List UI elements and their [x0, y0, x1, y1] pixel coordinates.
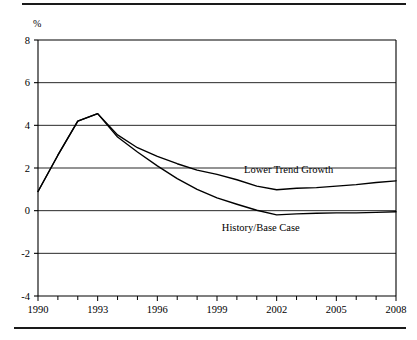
chart-canvas: 86420-2-4 1990199319961999200220052008 %… — [0, 0, 417, 340]
y-axis-title: % — [33, 18, 41, 29]
series-inline-labels: Lower Trend GrowthHistory/Base Case — [222, 164, 334, 233]
gridlines-group — [38, 40, 396, 253]
y-tick-label: -4 — [21, 291, 30, 302]
x-axis-tick-labels: 1990199319961999200220052008 — [28, 304, 407, 315]
line-chart: 86420-2-4 1990199319961999200220052008 %… — [0, 0, 417, 340]
x-tick-label: 2002 — [266, 304, 287, 315]
series-lines-group — [38, 114, 396, 215]
series-label: Lower Trend Growth — [244, 164, 334, 175]
y-tick-label: 4 — [25, 120, 31, 131]
y-tick-label: 2 — [25, 163, 30, 174]
y-axis-tick-labels: 86420-2-4 — [21, 35, 31, 302]
x-tick-label: 1996 — [147, 304, 168, 315]
y-axis-ticks — [34, 40, 38, 296]
x-tick-label: 2008 — [386, 304, 407, 315]
series-line — [38, 114, 396, 215]
x-tick-label: 1993 — [87, 304, 108, 315]
y-tick-label: 6 — [25, 77, 30, 88]
y-tick-label: -2 — [21, 248, 30, 259]
x-tick-label: 1999 — [207, 304, 228, 315]
figure-container: 86420-2-4 1990199319961999200220052008 %… — [0, 0, 417, 340]
series-label: History/Base Case — [222, 222, 300, 233]
y-tick-label: 0 — [25, 205, 30, 216]
x-axis-ticks — [38, 296, 396, 301]
y-tick-label: 8 — [25, 35, 30, 46]
x-tick-label: 2005 — [326, 304, 347, 315]
x-tick-label: 1990 — [28, 304, 49, 315]
